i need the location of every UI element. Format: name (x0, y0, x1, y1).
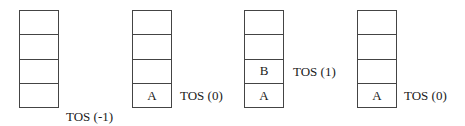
stack-cell (133, 11, 171, 35)
stack-cell (358, 11, 396, 35)
tos-label: TOS (1) (293, 65, 336, 78)
stack-cell (20, 11, 58, 35)
tos-label: TOS (0) (404, 89, 447, 102)
stack-cell: B (245, 60, 283, 84)
stack-cell (20, 35, 58, 59)
stack-pop: A (357, 10, 397, 108)
stack-cell (358, 60, 396, 84)
stack-cell: A (358, 84, 396, 107)
stack-cell (245, 11, 283, 35)
stack-cell (245, 35, 283, 59)
stack-cell: A (245, 84, 283, 107)
stack-cell (20, 60, 58, 84)
tos-label: TOS (0) (180, 89, 223, 102)
stack-empty (19, 10, 59, 108)
stack-push-a: A (132, 10, 172, 108)
stack-cell (20, 84, 58, 107)
stack-cell (133, 60, 171, 84)
stack-cell (133, 35, 171, 59)
stack-cell (358, 35, 396, 59)
tos-label: TOS (-1) (66, 110, 113, 123)
stack-cell: A (133, 84, 171, 107)
stack-push-b: B A (244, 10, 284, 108)
